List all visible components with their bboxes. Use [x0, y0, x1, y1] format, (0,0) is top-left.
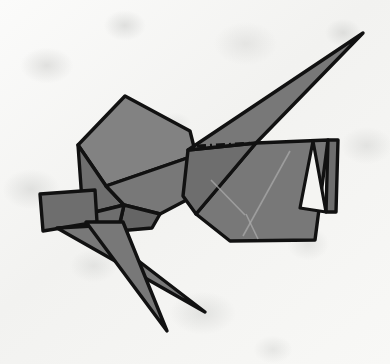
part-wing-spike [188, 33, 363, 150]
part-tail-flap-outer [326, 140, 338, 212]
facet-group [40, 33, 363, 331]
origami-artboard [0, 0, 390, 364]
origami-figure [0, 0, 390, 364]
